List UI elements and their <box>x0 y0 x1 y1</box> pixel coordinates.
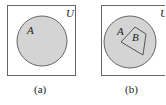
diagram-a: U A (a) <box>8 6 76 97</box>
set-a-circle <box>17 16 67 66</box>
caption-a: (a) <box>34 83 47 96</box>
venn-diagrams: U A (a) U A B (b) <box>0 0 165 105</box>
universe-label: U <box>66 7 75 19</box>
set-a-label: A <box>116 25 124 37</box>
caption-b: (b) <box>125 83 138 96</box>
set-a-label: A <box>26 24 34 36</box>
set-b-label: B <box>132 31 139 43</box>
universe-label: U <box>160 7 165 19</box>
diagram-b: U A B (b) <box>102 6 166 97</box>
